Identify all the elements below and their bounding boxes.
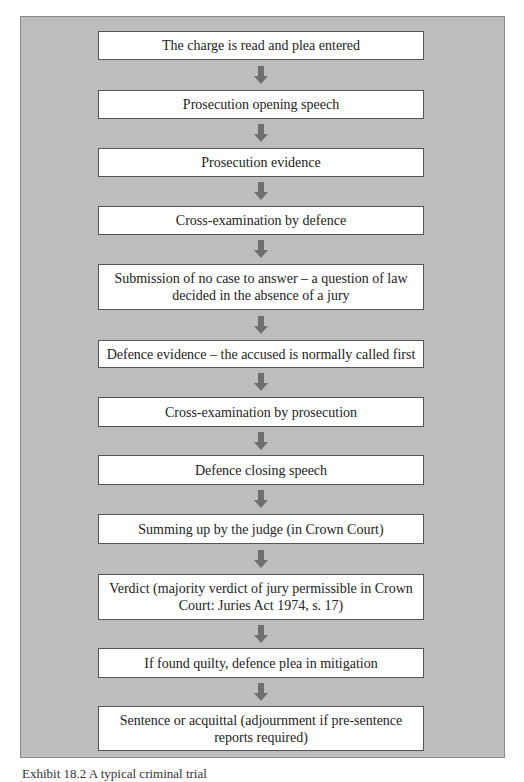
- down-arrow-icon: [254, 490, 268, 508]
- down-arrow-icon: [254, 124, 268, 142]
- down-arrow-icon: [254, 550, 268, 568]
- step-label: Sentence or acquittal (adjournment if pr…: [113, 712, 409, 746]
- figure-caption: Exhibit 18.2 A typical criminal trial: [22, 766, 207, 782]
- down-arrow-icon: [254, 66, 268, 84]
- step-label: Verdict (majority verdict of jury permis…: [103, 580, 419, 614]
- step-box-defence-closing: Defence closing speech: [98, 455, 424, 485]
- step-box-plea-in-mitigation: If found quilty, defence plea in mitigat…: [98, 648, 424, 678]
- step-label: Prosecution opening speech: [183, 96, 339, 113]
- step-box-charge-plea: The charge is read and plea entered: [98, 31, 424, 60]
- down-arrow-icon: [254, 182, 268, 200]
- step-box-prosecution-opening: Prosecution opening speech: [98, 90, 424, 119]
- down-arrow-icon: [254, 432, 268, 450]
- step-box-verdict: Verdict (majority verdict of jury permis…: [98, 574, 424, 620]
- step-label: If found quilty, defence plea in mitigat…: [144, 655, 378, 672]
- down-arrow-icon: [254, 240, 268, 258]
- step-box-cross-exam-prosecution: Cross-examination by prosecution: [98, 397, 424, 427]
- down-arrow-icon: [254, 316, 268, 334]
- down-arrow-icon: [254, 683, 268, 701]
- step-label: Defence closing speech: [195, 462, 327, 479]
- step-label: Prosecution evidence: [201, 154, 320, 171]
- step-label: Defence evidence – the accused is normal…: [107, 346, 416, 363]
- step-label: Cross-examination by prosecution: [165, 404, 357, 421]
- down-arrow-icon: [254, 625, 268, 643]
- step-label: Submission of no case to answer – a ques…: [111, 270, 411, 304]
- step-box-defence-evidence: Defence evidence – the accused is normal…: [98, 340, 424, 368]
- step-label: The charge is read and plea entered: [162, 37, 360, 54]
- down-arrow-icon: [254, 373, 268, 391]
- step-box-prosecution-evidence: Prosecution evidence: [98, 148, 424, 177]
- step-box-cross-exam-defence: Cross-examination by defence: [98, 206, 424, 235]
- step-label: Cross-examination by defence: [176, 212, 346, 229]
- step-label: Summing up by the judge (in Crown Court): [138, 521, 383, 538]
- step-box-no-case-submission: Submission of no case to answer – a ques…: [98, 264, 424, 310]
- step-box-summing-up: Summing up by the judge (in Crown Court): [98, 514, 424, 544]
- step-box-sentence-or-acquittal: Sentence or acquittal (adjournment if pr…: [98, 706, 424, 751]
